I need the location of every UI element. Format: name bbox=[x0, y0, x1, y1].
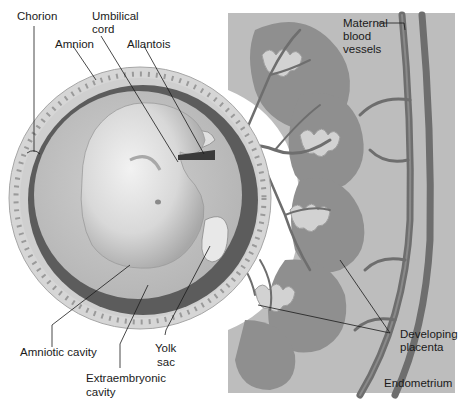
label-amniotic-cavity: Amniotic cavity bbox=[20, 346, 97, 358]
embryo-placenta-diagram: Chorion Umbilical cord Amnion Allantois … bbox=[0, 0, 469, 406]
label-umbilical-cord-1: Umbilical bbox=[92, 10, 139, 22]
label-yolk-sac-2: sac bbox=[157, 356, 175, 368]
label-developing-placenta-2: placenta bbox=[400, 341, 444, 353]
label-developing-placenta-1: Developing bbox=[400, 328, 458, 340]
label-extraembryonic-2: cavity bbox=[86, 386, 116, 398]
label-yolk-sac-1: Yolk bbox=[155, 342, 177, 354]
label-extraembryonic-1: Extraembryonic bbox=[86, 372, 166, 384]
label-endometrium: Endometrium bbox=[384, 377, 452, 389]
label-maternal-1: Maternal bbox=[343, 17, 388, 29]
label-amnion: Amnion bbox=[55, 38, 94, 50]
label-maternal-3: vessels bbox=[343, 43, 382, 55]
label-umbilical-cord-2: cord bbox=[92, 23, 114, 35]
label-maternal-2: blood bbox=[343, 30, 371, 42]
label-chorion: Chorion bbox=[17, 10, 57, 22]
embryo bbox=[81, 103, 205, 268]
label-allantois: Allantois bbox=[127, 38, 171, 50]
